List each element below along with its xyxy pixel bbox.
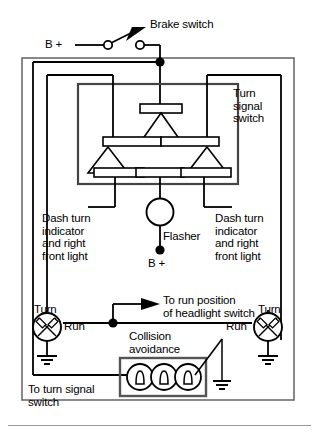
- collision-lamp-2-filament: [160, 371, 168, 384]
- label-run-right: Run: [226, 320, 247, 333]
- label-collision-avoidance: Collision avoidance: [129, 330, 180, 355]
- label-turn-signal-switch: Turn signal switch: [233, 87, 264, 125]
- collision-lamp-1-filament: [136, 371, 144, 384]
- brake-switch-arrow-icon: [126, 27, 146, 41]
- contact-bar-bottom-right: [181, 168, 231, 177]
- diagram-page: B + Brake switch Turn signal switch Dash…: [0, 0, 319, 436]
- run-arrow-head-icon: [141, 298, 160, 310]
- contact-bar-mid-right: [161, 137, 219, 146]
- wiper-triangle-top: [142, 113, 180, 140]
- label-run-left: Run: [64, 320, 85, 333]
- label-brake-switch: Brake switch: [150, 18, 213, 31]
- flasher-symbol: [147, 199, 174, 226]
- junction-dot-flasher-bplus: [155, 245, 164, 254]
- label-b-plus-flasher: B +: [148, 257, 165, 270]
- label-flasher: Flasher: [163, 230, 200, 243]
- label-turn-left: Turn: [34, 303, 57, 316]
- brake-switch-terminal-right: [136, 41, 144, 49]
- contact-bar-mid-left: [103, 137, 161, 146]
- label-dash-left: Dash turn indicator and right front ligh…: [42, 212, 91, 262]
- label-to-turn-signal-switch: To turn signal switch: [28, 383, 94, 408]
- label-to-run-position: To run position of headlight switch: [163, 294, 255, 319]
- contact-bar-bottom-center: [136, 168, 184, 177]
- bottom-divider: [8, 425, 311, 426]
- collision-lamp-3-filament: [184, 371, 192, 384]
- label-turn-right: Turn: [258, 303, 281, 316]
- label-b-plus-top: B +: [45, 38, 62, 51]
- label-dash-right: Dash turn indicator and right front ligh…: [215, 212, 264, 262]
